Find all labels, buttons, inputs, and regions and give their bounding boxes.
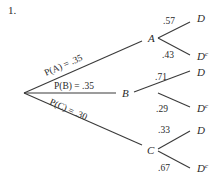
prob-label-b: P(B) = .35 — [54, 81, 94, 92]
prob-label-a: P(A) = .35 — [43, 52, 85, 78]
probability-tree: A B C P(A) = .35 P(B) = .35 P(C) = .30 .… — [0, 0, 217, 184]
branch-label-c-d: .33 — [158, 125, 170, 135]
branch-label-a-d: .57 — [163, 16, 175, 26]
leaf-c-d: D — [196, 124, 205, 136]
node-c: C — [147, 144, 155, 156]
leaf-c-dc: Dc — [196, 162, 209, 174]
leaf-a-d: D — [196, 12, 205, 24]
leaf-b-dc: Dc — [196, 102, 209, 114]
branch-label-b-d: .71 — [155, 72, 167, 82]
leaf-a-dc: Dc — [196, 50, 209, 62]
branch-label-c-dc: .67 — [158, 163, 170, 173]
branch-label-b-dc: .29 — [156, 104, 168, 114]
node-b: B — [122, 87, 129, 99]
tree-diagram: 1. A B C P(A) = .35 P(B) = .35 P(C) = .3… — [0, 0, 217, 184]
prob-label-c: P(C) = .30 — [48, 97, 89, 123]
node-a: A — [147, 32, 155, 44]
leaf-b-d: D — [196, 66, 205, 78]
problem-number: 1. — [8, 4, 16, 16]
branch-label-a-dc: .43 — [162, 50, 174, 60]
